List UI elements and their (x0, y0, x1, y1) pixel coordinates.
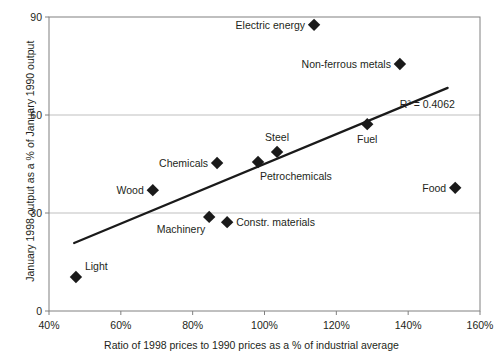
data-point-label: Wood (117, 185, 144, 196)
data-point-marker[interactable] (308, 19, 320, 31)
data-point-marker[interactable] (252, 156, 264, 168)
x-axis-tick-label: 100% (251, 320, 278, 331)
data-point-label: Constr. materials (236, 217, 315, 228)
data-point-label: Machinery (157, 224, 205, 235)
data-point-label: Food (422, 183, 446, 194)
x-axis-tick-label: 120% (323, 320, 350, 331)
r-squared-annotation: R² = 0.4062 (400, 98, 455, 109)
data-point-label: Petrochemicals (260, 171, 332, 182)
x-axis-tick-label: 140% (395, 320, 422, 331)
data-point-marker[interactable] (211, 157, 223, 169)
data-point-marker[interactable] (394, 58, 406, 70)
data-point-label: Chemicals (159, 158, 208, 169)
data-point-label: Steel (265, 132, 289, 143)
x-axis-title: Ratio of 1998 prices to 1990 prices as a… (0, 340, 503, 351)
data-point-label: Light (85, 261, 108, 272)
data-point-marker[interactable] (147, 184, 159, 196)
data-point-label: Non-ferrous metals (302, 59, 391, 70)
data-point-marker[interactable] (70, 271, 82, 283)
data-point-label: Electric energy (236, 20, 305, 31)
x-axis-tick-label: 60% (110, 320, 131, 331)
data-point-marker[interactable] (449, 182, 461, 194)
data-point-marker[interactable] (221, 216, 233, 228)
x-axis-tick-label: 40% (38, 320, 59, 331)
x-axis-tick-label: 80% (182, 320, 203, 331)
scatter-chart: 030609040%60%80%100%120%140%160% Electri… (0, 0, 503, 363)
x-axis-tick-label: 160% (467, 320, 494, 331)
y-axis-title: January 1998 output as a % of January 19… (25, 11, 36, 311)
data-point-label: Fuel (357, 134, 377, 145)
